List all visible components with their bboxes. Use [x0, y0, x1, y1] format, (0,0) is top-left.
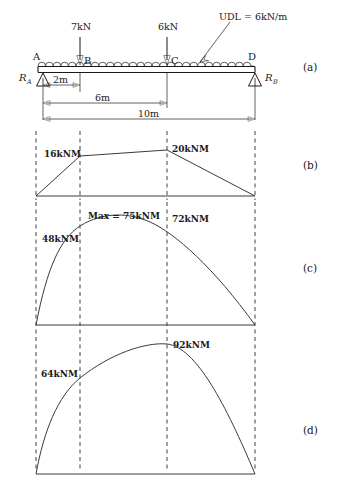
panel-label-c: (c)	[303, 262, 317, 274]
panel-label-a: (a)	[303, 61, 317, 73]
value-label-b-20: 20kNM	[172, 144, 209, 154]
reaction-a: R A	[18, 72, 32, 86]
value-label-c-72: 72kNM	[172, 214, 209, 224]
support-d	[249, 73, 262, 86]
value-label-b-16: 16kNM	[44, 149, 81, 159]
reaction-a-symbol: R	[18, 72, 27, 83]
moment-profile-d	[36, 344, 255, 474]
node-label-d: D	[248, 51, 256, 62]
reaction-b-symbol: R	[264, 72, 273, 83]
moment-profile-c	[36, 215, 255, 325]
udl-leader-arrow	[200, 22, 230, 62]
dimension-10m-label: 10m	[138, 108, 159, 119]
node-label-b: B	[84, 55, 91, 66]
udl-label: UDL = 6kN/m	[219, 11, 287, 22]
dimension-10m: 10m	[43, 108, 255, 121]
panel-label-b: (b)	[303, 159, 318, 171]
panel-label-d: (d)	[303, 424, 318, 436]
panel-d-diagram: 64kNM 92kNM (d)	[36, 337, 318, 474]
value-label-c-48: 48kNM	[42, 234, 79, 244]
dimension-6m: 6m	[43, 92, 167, 105]
value-label-d-64: 64kNM	[41, 369, 78, 379]
support-a	[37, 73, 50, 86]
panel-b-diagram: 16kNM 20kNM (b)	[36, 131, 318, 200]
reaction-a-subscript: A	[26, 78, 32, 86]
panel-c-diagram: 48kNM Max = 75kNM 72kNM (c)	[36, 202, 317, 335]
dimension-2m: 2m	[43, 74, 80, 87]
panel-a-beam: UDL = 6kN/m 7kN 6kN A B C D	[18, 11, 317, 121]
beam-member	[38, 67, 255, 73]
dimension-6m-label: 6m	[95, 92, 110, 103]
point-load-b-label: 7kN	[71, 21, 91, 32]
node-label-a: A	[32, 51, 41, 62]
value-label-c-max: Max = 75kNM	[88, 211, 160, 221]
dimension-2m-label: 2m	[53, 74, 68, 85]
beam-diagram-figure: UDL = 6kN/m 7kN 6kN A B C D	[0, 0, 340, 491]
reaction-b: R B	[264, 72, 278, 86]
reaction-b-subscript: B	[272, 78, 278, 86]
point-load-c-label: 6kN	[158, 21, 178, 32]
value-label-d-92: 92kNM	[173, 340, 210, 350]
node-label-c: C	[171, 55, 179, 66]
figure-canvas: UDL = 6kN/m 7kN 6kN A B C D	[0, 0, 340, 491]
